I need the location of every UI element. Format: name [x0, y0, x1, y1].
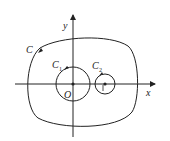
- contour-diagram: y x O C C 1 C 2: [0, 0, 170, 141]
- curve-c-label: C: [26, 44, 33, 55]
- c2-center-point: [103, 82, 106, 85]
- circle-c2-label: C: [92, 60, 99, 71]
- circle-c2-subscript: 2: [99, 67, 102, 73]
- origin-label: O: [64, 89, 71, 100]
- circle-c1-subscript: 1: [59, 66, 62, 72]
- curve-c: [28, 38, 138, 126]
- y-axis-label: y: [62, 20, 68, 31]
- circle-c1-arrow-icon: [64, 66, 69, 70]
- origin-point: [71, 82, 74, 85]
- circle-c1-label: C: [52, 59, 59, 70]
- x-axis-label: x: [145, 87, 151, 98]
